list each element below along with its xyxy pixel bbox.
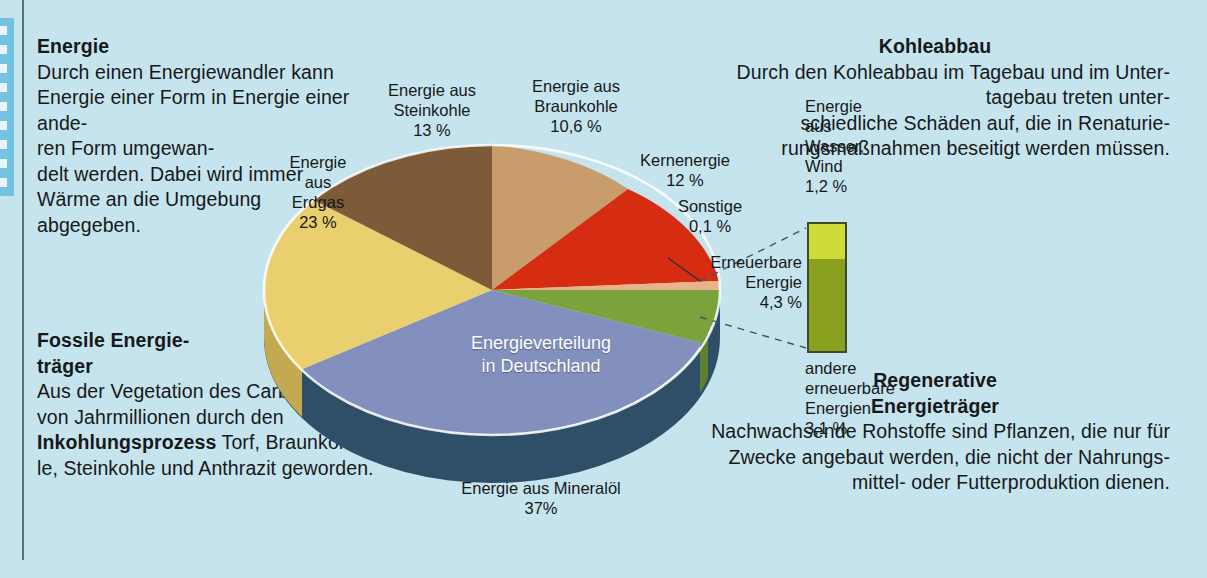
page-edge-notch (0, 159, 7, 168)
heading-regenerative-energietraeger: Regenerative Energieträger (700, 368, 1170, 419)
text-block-fossile-energietraeger: Fossile Energie- träger Aus der Vegetati… (37, 328, 467, 481)
text-block-kohleabbau: Kohleabbau Durch den Kohleabbau im Tageb… (700, 34, 1170, 162)
page-edge-notch (0, 102, 7, 111)
pie-center-caption: Energieverteilung in Deutschland (418, 332, 664, 378)
heading-energie: Energie (37, 34, 367, 60)
page-edge-notch (0, 83, 7, 92)
callout-stacked-bar (807, 222, 847, 353)
pie-label-kernenergie: Kernenergie 12 % (630, 150, 740, 190)
body-fossile-keyword: Inkohlungsprozess (37, 431, 216, 453)
body-kohleabbau: Durch den Kohleabbau im Tagebau und im U… (737, 61, 1170, 160)
pie-slice-sonstige (492, 281, 720, 290)
page-edge-notch (0, 26, 7, 35)
pie-label-mineraloel: Energie aus Mineralöl 37% (426, 478, 656, 518)
pie-label-erdgas: Energie aus Erdgas 23 % (278, 152, 358, 232)
page-edge-notch (0, 140, 7, 149)
pie-label-braunkohle: Energie aus Braunkohle 10,6 % (516, 76, 636, 136)
heading-fossile-energietraeger: Fossile Energie- träger (37, 328, 467, 379)
page-margin-rule (22, 0, 24, 560)
heading-kohleabbau: Kohleabbau (700, 34, 1170, 60)
leader-line-callout-bottom (700, 317, 806, 348)
pie-label-erneuerbare: Erneuerbare Energie 4,3 % (690, 252, 802, 312)
pie-slice-braunkohle (492, 145, 628, 290)
callout-label-andere-erneuerbare: andere erneuerbare Energien 3,1 % (805, 358, 925, 438)
callout-bar-segment-andere (809, 259, 845, 351)
body-regenerative: Nachwachsende Rohstoffe sind Pflanzen, d… (711, 420, 1170, 493)
text-block-regenerative-energietraeger: Regenerative Energieträger Nachwachsende… (700, 368, 1170, 496)
page-edge-notch (0, 178, 7, 187)
poster-page: Energie Durch einen Energiewandler kann … (0, 0, 1207, 578)
page-edge-notch (0, 121, 7, 130)
callout-bar-segment-wasser-wind (809, 224, 845, 259)
body-fossile-part1: Aus der Vegetation des Carbons sind im L… (37, 380, 444, 428)
pie-label-sonstige: Sonstige 0,1 % (660, 196, 760, 236)
pie-label-steinkohle: Energie aus Steinkohle 13 % (376, 80, 488, 140)
callout-label-wasser-wind: Energie aus Wasser, Wind 1,2 % (805, 96, 915, 196)
page-edge-notch (0, 45, 7, 54)
page-edge-notch (0, 64, 7, 73)
